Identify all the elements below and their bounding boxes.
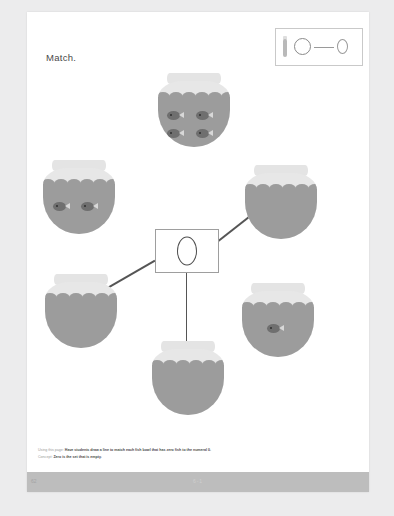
bowl-bottom-center[interactable]: [152, 341, 224, 415]
lesson-code: 6-1: [193, 478, 203, 484]
bowl-right-lower[interactable]: [242, 283, 314, 357]
water-surface: [245, 184, 317, 194]
bowl-body: [45, 282, 117, 348]
concept-line: Concept: Zero is the set that is empty.: [38, 454, 348, 461]
fish: [196, 111, 213, 120]
numeral-answer-box[interactable]: [155, 229, 219, 273]
fish: [267, 324, 284, 333]
bowl-top-center[interactable]: [158, 73, 230, 147]
fish: [167, 129, 184, 138]
fish: [53, 202, 70, 211]
connector-line-bottom-center: [186, 271, 188, 341]
numeral-zero: [177, 237, 197, 266]
bowl-body: [242, 291, 314, 357]
bowl-body: [152, 349, 224, 415]
bowl-water: [45, 298, 117, 348]
fish-bowl-icon: [283, 36, 287, 57]
page-title: Match.: [46, 52, 76, 63]
circle-icon: [294, 38, 311, 55]
bowl-water: [152, 365, 224, 415]
bowl-body: [158, 81, 230, 147]
teacher-note: Using this page: Have students draw a li…: [38, 447, 348, 460]
zero-numeral-icon: [337, 39, 348, 54]
bowl-left-upper[interactable]: [43, 160, 115, 234]
bowl-water: [245, 189, 317, 239]
water-surface: [45, 293, 117, 303]
water-surface: [43, 179, 115, 189]
connector-line-icon: [314, 47, 334, 48]
water-surface: [152, 360, 224, 370]
fish: [196, 129, 213, 138]
page-footer-bar: 62 6-1: [27, 472, 369, 492]
bowl-body: [43, 168, 115, 234]
page-number: 62: [31, 478, 37, 484]
water-surface: [242, 302, 314, 312]
bowl-water: [158, 97, 230, 147]
bowl-water-icon: [283, 39, 287, 57]
bowl-right-upper[interactable]: [245, 165, 317, 239]
fish: [167, 111, 184, 120]
bowl-body: [245, 173, 317, 239]
concept-text: Zero is the set that is empty.: [53, 455, 101, 459]
water-surface: [158, 92, 230, 102]
fish: [81, 202, 98, 211]
using-this-page-text: Have students draw a line to match each …: [65, 448, 211, 452]
concept-label: Concept:: [38, 455, 52, 459]
using-this-page-label: Using this page:: [38, 448, 64, 452]
worksheet-page: Match.: [27, 12, 369, 492]
bowl-left-lower[interactable]: [45, 274, 117, 348]
example-key-box: [275, 28, 363, 66]
